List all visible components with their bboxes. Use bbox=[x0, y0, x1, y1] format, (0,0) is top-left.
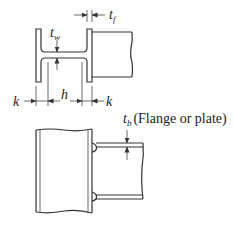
column-elevation bbox=[36, 129, 92, 213]
tb-dimension: tb(Flange or plate) bbox=[123, 111, 227, 160]
k-left-label: k bbox=[13, 94, 20, 109]
k-right-label: k bbox=[106, 94, 113, 109]
left-flange bbox=[36, 29, 92, 82]
connection-diagram: tf tw k h k bbox=[0, 0, 234, 226]
tf-label: tf bbox=[109, 7, 117, 24]
tw-label: tw bbox=[50, 25, 60, 42]
tw-dimension: tw bbox=[50, 25, 60, 70]
tb-label: tb(Flange or plate) bbox=[123, 111, 227, 128]
tf-dimension: tf bbox=[74, 7, 117, 24]
beam-plan bbox=[92, 32, 133, 77]
top-view: tf tw k h k bbox=[13, 7, 133, 109]
beam-flanges bbox=[96, 143, 143, 199]
h-label: h bbox=[61, 87, 68, 102]
bottom-view: tb(Flange or plate) bbox=[36, 111, 227, 213]
welds bbox=[92, 143, 97, 201]
khk-dimension: k h k bbox=[13, 62, 113, 109]
